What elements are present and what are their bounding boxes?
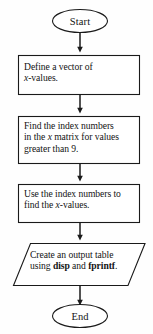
process1-shape xyxy=(19,56,140,95)
process3-shape xyxy=(19,185,140,223)
end-terminator-shape xyxy=(53,305,108,328)
flowchart-diagram: Start Define a vector ofx-values. Find t… xyxy=(0,0,153,334)
io-parallelogram-shape xyxy=(14,244,146,286)
start-terminator-shape xyxy=(53,10,108,33)
process2-shape xyxy=(19,117,140,164)
flowchart-shapes xyxy=(0,0,153,334)
